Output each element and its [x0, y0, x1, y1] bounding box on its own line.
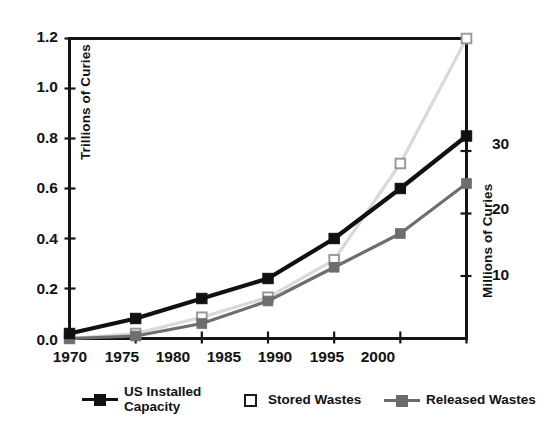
gray-line-square-key-icon	[384, 393, 420, 407]
y-axis-tick-0-4: 0.4	[12, 230, 58, 248]
y-axis-tick-0-8: 0.8	[12, 129, 58, 147]
y-axis-title-right: Millions of Curies	[480, 184, 495, 298]
plot-area	[68, 37, 468, 340]
chart-legend: US Installed Capacity Stored Wastes Rele…	[0, 384, 539, 430]
open-square-key-icon	[244, 393, 262, 407]
legend-item-released-wastes[interactable]: Released Wastes	[384, 392, 536, 407]
y-axis-tick-1-2: 1.2	[12, 28, 58, 46]
y-axis-tick-0-0: 0.0	[12, 331, 58, 349]
y-axis-tick-0-6: 0.6	[12, 179, 58, 197]
y2-axis-tick-20: 20	[492, 200, 532, 218]
black-line-square-key-icon	[82, 392, 118, 406]
y2-axis-tick-10: 10	[492, 266, 532, 284]
legend-label-released-wastes: Released Wastes	[426, 392, 536, 407]
x-axis-tick-2000: 2000	[348, 348, 408, 366]
legend-label-us-installed-capacity: US Installed Capacity	[124, 384, 201, 414]
x-axis-tick-1970: 1970	[40, 348, 100, 366]
y-axis-tick-0-2: 0.2	[12, 280, 58, 298]
x-axis-tick-1990: 1990	[245, 348, 305, 366]
chart-container: 1.2 1.0 0.8 0.6 0.4 0.2 0.0 30 20 10 197…	[0, 0, 539, 432]
legend-item-us-installed-capacity[interactable]: US Installed Capacity	[82, 384, 201, 414]
y-axis-title-left: Trillions of Curies	[78, 44, 93, 160]
y-axis-tick-1-0: 1.0	[12, 78, 58, 96]
y2-axis-tick-30: 30	[492, 135, 532, 153]
legend-item-stored-wastes[interactable]: Stored Wastes	[244, 392, 361, 407]
legend-label-stored-wastes: Stored Wastes	[268, 392, 361, 407]
